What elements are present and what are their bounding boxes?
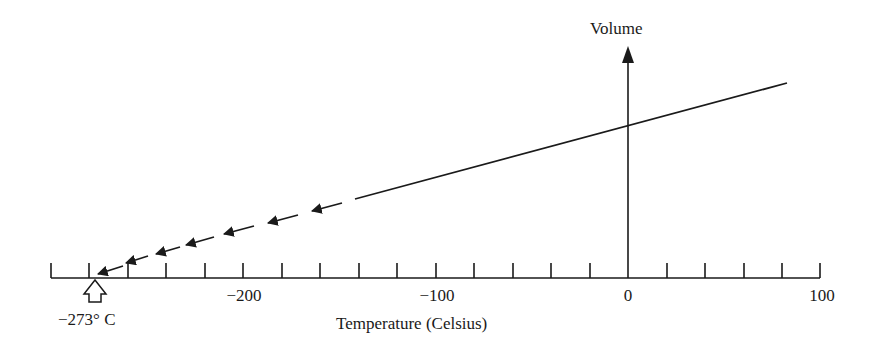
x-axis-label: Temperature (Celsius) (336, 315, 487, 332)
absolute-zero-marker-icon (84, 280, 106, 302)
x-tick-label-0: 0 (624, 287, 633, 304)
x-axis (51, 263, 820, 278)
y-axis-label: Volume (590, 20, 643, 37)
x-axis-ticks (51, 263, 820, 278)
x-tick-label-100: 100 (809, 287, 835, 304)
x-tick-label-minus-100: −100 (419, 287, 454, 304)
extrapolation-dashed-arrows (98, 203, 342, 274)
y-axis (622, 46, 634, 278)
absolute-zero-label: −273° C (58, 311, 115, 328)
x-tick-label-minus-200: −200 (226, 287, 261, 304)
measured-volume-line (355, 83, 787, 199)
y-axis-arrowhead-icon (622, 46, 634, 63)
